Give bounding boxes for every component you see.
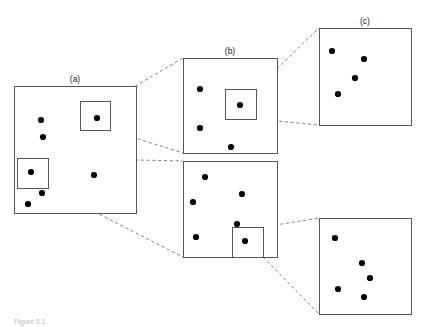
panel-a-outer-box (15, 87, 137, 214)
panel-a-dot-2 (28, 169, 34, 175)
panel-c-top-dot-0 (329, 48, 335, 54)
panel-c-top-dot-1 (361, 56, 367, 62)
caption-layer: Figure 5.1 (14, 318, 46, 326)
conn-b2-to-c2-bottomleft (263, 257, 319, 314)
panel-b-bottom (184, 162, 278, 258)
panel-label-0: (a) (70, 74, 81, 84)
panel-b-bottom-dot-0 (202, 174, 208, 180)
panel-b-top (184, 59, 278, 154)
panel-b-bottom-dot-2 (239, 191, 245, 197)
panel-a (15, 87, 137, 214)
panel-c-bottom-dot-3 (335, 286, 341, 292)
panel-label-2: (c) (360, 16, 370, 26)
panel-b-bottom-dot-3 (193, 234, 199, 240)
panel-c-bottom-dot-2 (367, 275, 373, 281)
panel-a-dot-1 (40, 134, 46, 140)
panel-c-bottom-dot-0 (332, 235, 338, 241)
panel-c-bottom-dot-4 (361, 294, 367, 300)
panel-b-bottom-dot-1 (190, 199, 196, 205)
figure-caption: Figure 5.1 (14, 318, 46, 326)
panel-b-bottom-dot-5 (242, 238, 248, 244)
panel-b-bottom-dot-4 (234, 221, 240, 227)
panel-a-dot-5 (91, 172, 97, 178)
figure-svg: (a)(b)(c) Figure 5.1 (0, 0, 426, 327)
panel-label-1: (b) (225, 46, 236, 56)
panel-b-top-outer-box (184, 59, 278, 154)
figure-container: (a)(b)(c) Figure 5.1 (0, 0, 426, 327)
panel-c-bottom-dot-1 (359, 260, 365, 266)
panel-b-top-dot-2 (228, 144, 234, 150)
panel-c-top-dot-2 (352, 75, 358, 81)
panel-c-bottom-outer-box (320, 219, 412, 315)
panel-a-dot-0 (38, 117, 44, 123)
panel-layer (15, 29, 412, 315)
panel-c-bottom (320, 219, 412, 315)
panel-b-top-dot-1 (197, 125, 203, 131)
panel-c-top-outer-box (320, 29, 412, 126)
panel-c-top (320, 29, 412, 126)
panel-a-dot-3 (39, 190, 45, 196)
panel-b-top-dot-3 (237, 102, 243, 108)
panel-a-dot-6 (94, 115, 100, 121)
panel-c-top-dot-3 (335, 91, 341, 97)
panel-a-dot-4 (25, 201, 31, 207)
panel-b-top-dot-0 (197, 86, 203, 92)
